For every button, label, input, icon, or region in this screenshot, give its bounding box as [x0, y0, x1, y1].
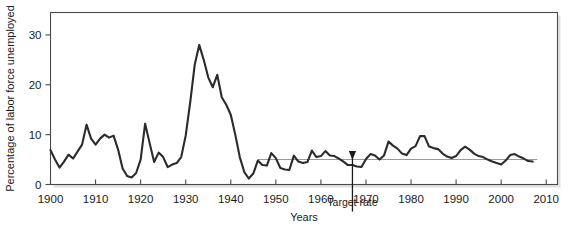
x-tick-label: 1910	[83, 193, 109, 205]
x-tick-label: 1930	[173, 193, 199, 205]
x-tick-label: 1990	[443, 193, 469, 205]
x-tick-label: 1920	[128, 193, 154, 205]
y-tick-label: 0	[35, 179, 41, 191]
x-tick-label: 1940	[218, 193, 244, 205]
x-tick-label: 1950	[263, 193, 289, 205]
x-tick-label: 1980	[398, 193, 424, 205]
x-tick-label: 2010	[533, 193, 559, 205]
chart-canvas: 0102030190019101920193019401950196019701…	[0, 0, 577, 241]
x-tick-label: 2000	[488, 193, 514, 205]
y-tick-label: 30	[29, 29, 42, 41]
target-rate-annotation-label: Target rate	[327, 196, 377, 208]
x-axis-label: Years	[290, 211, 318, 223]
y-tick-label: 10	[29, 129, 42, 141]
y-tick-label: 20	[29, 79, 42, 91]
x-tick-label: 1900	[38, 193, 64, 205]
plot-frame	[51, 13, 558, 185]
y-axis-label: Percentage of labor force unemployed	[4, 5, 16, 192]
unemployment-chart-figure: 0102030190019101920193019401950196019701…	[0, 0, 577, 241]
